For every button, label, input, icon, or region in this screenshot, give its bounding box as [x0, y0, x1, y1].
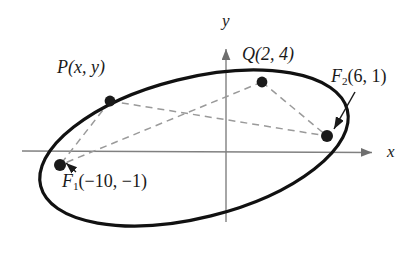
point-f1-label-coords: (−10, −1): [79, 171, 147, 191]
ellipse-figure: P(x, y) Q(2, 4) F2(6, 1) F1(−10, −1) x y: [0, 0, 417, 256]
f2-leader-arrow-icon: [334, 92, 355, 129]
point-f1-label-name: F: [62, 171, 73, 191]
point-q-label: Q(2, 4): [242, 45, 294, 63]
x-axis-label: x: [387, 143, 395, 160]
figure-canvas: [0, 0, 417, 256]
segment-p-f2: [110, 101, 327, 136]
x-axis: [22, 151, 372, 153]
y-axis-label: y: [222, 12, 230, 29]
point-f2-label-coords: (6, 1): [348, 66, 387, 86]
segment-q-f2: [262, 82, 327, 136]
point-f1-label: F1(−10, −1): [62, 172, 147, 190]
points-group: [54, 77, 333, 171]
point-f2-label: F2(6, 1): [331, 67, 387, 85]
point-f1-dot: [54, 159, 66, 171]
point-f2-label-name: F: [331, 66, 342, 86]
point-p-dot: [105, 96, 116, 107]
point-f2-dot: [321, 130, 333, 142]
point-q-dot: [257, 77, 268, 88]
point-p-label: P(x, y): [57, 58, 105, 76]
